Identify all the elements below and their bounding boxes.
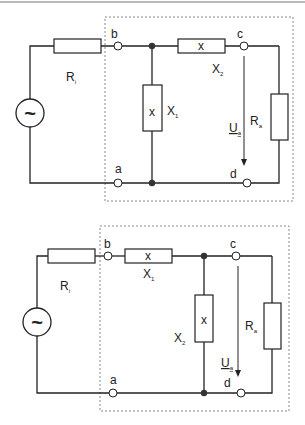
terminal-d [237,389,245,397]
label-b: b [111,27,118,41]
resistor-ra [264,303,281,349]
terminal-b [104,252,112,260]
label-ra: Ra [245,319,258,334]
label-ri: Ri [66,70,76,85]
arrow-head-icon [235,370,241,377]
junction-node [149,43,155,49]
label-ri: Ri [60,279,70,294]
label-c: c [230,237,236,251]
label-d: d [224,376,231,390]
x1-box-label: x [145,249,151,263]
terminal-c [232,252,240,260]
label-ua: Ua [221,356,234,371]
ac-source-symbol: ~ [31,311,43,333]
terminal-a [109,389,117,397]
circuit-diagrams: ~ Ri x X1 x X2 Ra Ua b c a d [0,0,305,425]
x2-box-label: x [201,313,207,327]
label-a: a [110,373,117,387]
resistor-ra [271,94,288,140]
label-x1: X1 [143,267,155,282]
x2-box-label: x [198,39,204,53]
circuit-1: ~ Ri x X1 x X2 Ra Ua b c a d [16,17,293,201]
label-x2: X2 [174,331,186,346]
junction-node [201,390,207,396]
label-a: a [115,162,122,176]
terminal-a [114,179,122,187]
terminal-b [114,42,122,50]
terminal-c [240,42,248,50]
label-b: b [104,237,111,251]
label-c: c [237,27,243,41]
junction-node [149,180,155,186]
terminal-d [243,179,251,187]
label-ua: Ua [229,121,242,136]
resistor-ri [54,39,101,53]
ac-source-symbol: ~ [24,102,36,124]
label-ra: Ra [250,114,263,129]
label-x1: X1 [167,104,179,119]
label-d: d [230,167,237,181]
x1-box-label: x [149,105,155,119]
arrow-head-icon [241,159,247,166]
junction-node [201,253,207,259]
resistor-ri [48,249,95,263]
label-x2: X2 [212,62,224,77]
circuit-2: ~ Ri x X1 x X2 Ra Ua b c a d [23,226,289,411]
